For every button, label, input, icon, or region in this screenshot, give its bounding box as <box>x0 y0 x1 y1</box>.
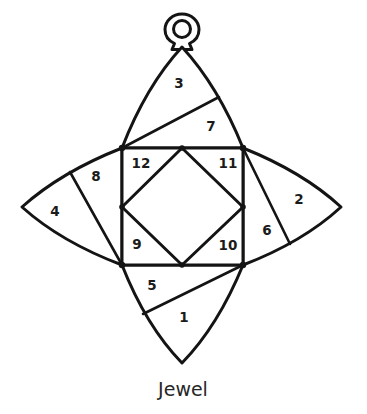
vertex-diamond-bottom <box>179 262 185 268</box>
piece-label-12: 12 <box>132 155 151 171</box>
vertex-diamond-left <box>119 204 125 210</box>
vertex-diamond-right <box>240 204 246 210</box>
vertex-diamond-top <box>179 145 185 151</box>
piece-label-6: 6 <box>262 222 271 238</box>
jewel-pattern-drawing: 1 2 3 4 5 6 7 8 9 10 11 12 Jewel <box>0 0 367 414</box>
petal-right <box>243 148 341 265</box>
vertex-square-top-right <box>240 145 246 151</box>
vertex-square-bottom-left <box>119 262 125 268</box>
piece-label-5: 5 <box>147 277 156 293</box>
piece-label-4: 4 <box>50 203 59 219</box>
piece-label-2: 2 <box>294 191 303 207</box>
vertex-square-bottom-right <box>240 262 246 268</box>
petal-left <box>22 148 122 265</box>
piece-label-11: 11 <box>219 155 238 171</box>
piece-label-10: 10 <box>219 237 238 253</box>
piece-label-1: 1 <box>179 309 188 325</box>
petal-top <box>122 47 243 148</box>
piece-label-3: 3 <box>174 75 183 91</box>
piece-label-9: 9 <box>132 236 141 252</box>
vertex-square-top-left <box>119 145 125 151</box>
figure-caption: Jewel <box>157 378 208 400</box>
piece-label-8: 8 <box>91 168 100 184</box>
piece-label-7: 7 <box>206 118 215 134</box>
jewel-diagram-figure: 1 2 3 4 5 6 7 8 9 10 11 12 Jewel <box>0 0 367 414</box>
ring-loop-icon <box>165 14 199 50</box>
